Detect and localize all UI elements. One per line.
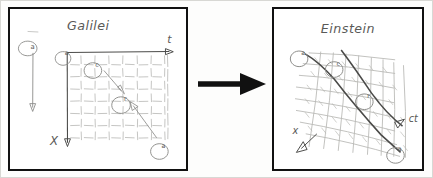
galilei-title: Galilei <box>67 18 109 33</box>
right-arrow-icon <box>196 62 268 106</box>
galilei-drawing: Galilei a t X <box>10 9 186 169</box>
diagram-canvas: Galilei a t X <box>0 0 433 178</box>
einstein-title: Einstein <box>321 21 375 36</box>
marker-a-lower-label: a <box>162 142 166 149</box>
marker-a-origin: a <box>55 49 71 65</box>
marker-c-upper: c <box>84 61 102 79</box>
panel-einstein: Einstein <box>272 7 424 171</box>
vertical-drop-arrow <box>30 53 36 112</box>
marker-c-upper-right: c <box>325 60 343 78</box>
transition-arrow <box>196 62 268 106</box>
marker-r-center-label: r <box>124 95 127 102</box>
galilei-axis-x-label: X <box>49 134 59 148</box>
marker-r-center: r <box>112 95 131 114</box>
marker-a-origin-label: a <box>65 49 69 56</box>
einstein-drawing: Einstein <box>274 9 422 169</box>
marker-a-top-left: a <box>290 49 308 67</box>
einstein-axis-ct-label: ct <box>409 113 419 124</box>
marker-a-top-left-label: a <box>301 49 305 56</box>
einstein-axis-x-label: x <box>292 125 299 136</box>
marker-a-lower: a <box>151 142 169 160</box>
marker-a-lower-right-label: a <box>398 145 402 152</box>
marker-c-upper-right-label: c <box>337 60 341 67</box>
marker-c-upper-label: c <box>95 61 99 68</box>
marker-a-outside-label: a <box>30 43 34 51</box>
marker-r-center-right-label: r <box>367 92 370 99</box>
marker-a-outside: a <box>18 31 38 55</box>
galilei-axis-t-label: t <box>167 33 172 46</box>
panel-galilei: Galilei a t X <box>8 7 188 171</box>
